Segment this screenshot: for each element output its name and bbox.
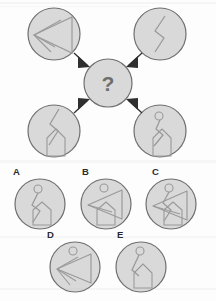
circle-outline <box>134 8 186 60</box>
circle-outline <box>116 242 166 292</box>
option-E[interactable] <box>116 242 166 292</box>
option-B[interactable] <box>81 179 131 229</box>
center-unknown-circle[interactable]: ? <box>84 59 132 107</box>
puzzle-container: ? <box>0 0 216 301</box>
prompt-circle-bottom-left <box>28 105 80 157</box>
option-label-B: B <box>82 167 89 177</box>
option-A[interactable] <box>15 179 65 229</box>
arrow-from-top-right <box>126 53 142 68</box>
arrow-from-top-left <box>74 53 90 68</box>
question-mark-label: ? <box>102 72 115 95</box>
option-C[interactable] <box>146 179 196 229</box>
arrow-from-bottom-right <box>126 98 142 113</box>
puzzle-canvas: ? <box>0 0 216 301</box>
option-label-D: D <box>47 230 54 240</box>
option-label-A: A <box>13 167 20 177</box>
arrow-from-bottom-left <box>74 98 90 113</box>
circle-outline <box>81 179 131 229</box>
option-label-E: E <box>117 230 124 240</box>
option-label-C: C <box>152 167 159 177</box>
prompt-circle-top-right <box>134 8 186 60</box>
option-D[interactable] <box>50 242 100 292</box>
circle-outline <box>50 242 100 292</box>
prompt-circle-top-left <box>28 8 80 60</box>
